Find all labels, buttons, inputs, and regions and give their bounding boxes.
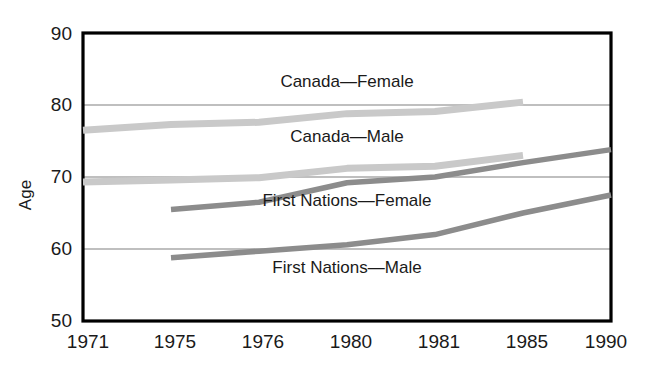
x-tick-1981: 1981 bbox=[418, 331, 460, 352]
x-tick-1990: 1990 bbox=[585, 331, 627, 352]
series-label-canada-female: Canada—Female bbox=[280, 72, 413, 91]
x-tick-1976: 1976 bbox=[242, 331, 284, 352]
y-tick-60: 60 bbox=[51, 238, 72, 259]
series-label-canada-male: Canada—Male bbox=[290, 127, 403, 146]
x-tick-1971: 1971 bbox=[67, 331, 109, 352]
y-tick-70: 70 bbox=[51, 166, 72, 187]
chart-page: 90 80 70 60 50 Age 1971 1975 1976 1980 1… bbox=[0, 0, 645, 373]
y-tick-90: 90 bbox=[51, 23, 72, 44]
x-tick-1975: 1975 bbox=[154, 331, 196, 352]
x-tick-1980: 1980 bbox=[330, 331, 372, 352]
y-tick-80: 80 bbox=[51, 94, 72, 115]
life-expectancy-line-chart: 90 80 70 60 50 Age 1971 1975 1976 1980 1… bbox=[0, 0, 645, 373]
x-tick-1985: 1985 bbox=[506, 331, 548, 352]
series-label-first-nations-female: First Nations—Female bbox=[262, 191, 431, 210]
y-axis-title: Age bbox=[16, 180, 35, 210]
y-tick-50: 50 bbox=[51, 310, 72, 331]
series-label-first-nations-male: First Nations—Male bbox=[272, 258, 421, 277]
